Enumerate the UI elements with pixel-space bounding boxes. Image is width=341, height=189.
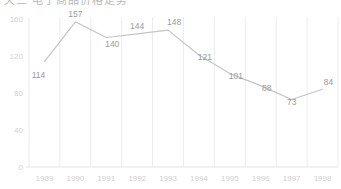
y-axis-tick-label: 80: [14, 89, 23, 98]
data-point-label: 148: [167, 17, 181, 27]
data-labels-group: 114157140144148121101887384: [32, 9, 334, 108]
x-axis-ticks: 1989199019911992199319941995199619971998: [36, 174, 332, 183]
data-point-label: 101: [229, 71, 243, 81]
x-axis-tick-label: 1996: [252, 174, 270, 183]
data-point-label: 140: [105, 39, 119, 49]
x-axis-tick-label: 1989: [36, 174, 54, 183]
data-point-label: 84: [324, 77, 334, 87]
y-axis-tick-label: 0: [19, 163, 24, 172]
chart-svg: 04080120160 1989199019911992199319941995…: [0, 7, 341, 189]
data-point-label: 157: [68, 9, 82, 19]
chart-page: 天三 电子商品价格走势 04080120160 1989199019911992…: [0, 0, 341, 189]
line-chart: 04080120160 1989199019911992199319941995…: [0, 7, 341, 189]
chart-title-clipped: 天三 电子商品价格走势: [0, 0, 341, 7]
chart-title-text: 天三 电子商品价格走势: [4, 0, 128, 7]
x-axis-tick-label: 1992: [128, 174, 146, 183]
x-axis-tick-label: 1994: [190, 174, 208, 183]
y-axis-tick-label: 120: [10, 52, 24, 61]
y-axis-ticks: 04080120160: [10, 15, 24, 172]
x-axis-tick-label: 1993: [159, 174, 177, 183]
y-axis-tick-label: 40: [14, 126, 23, 135]
data-point-label: 121: [198, 52, 212, 62]
x-axis-tick-label: 1990: [66, 174, 84, 183]
data-point-label: 144: [130, 21, 144, 31]
x-axis-tick-label: 1991: [97, 174, 115, 183]
x-axis-tick-label: 1997: [283, 174, 301, 183]
x-axis-tick-label: 1998: [314, 174, 332, 183]
data-point-label: 114: [32, 70, 46, 80]
x-axis-tick-label: 1995: [221, 174, 239, 183]
data-point-label: 73: [287, 97, 297, 107]
gridlines-group: [29, 17, 338, 167]
y-axis-tick-label: 160: [10, 15, 24, 24]
data-point-label: 88: [262, 83, 272, 93]
